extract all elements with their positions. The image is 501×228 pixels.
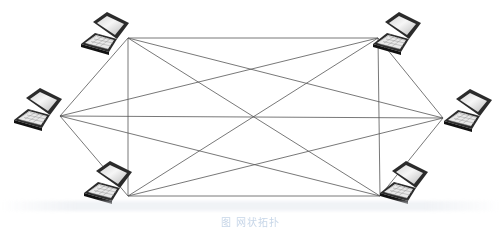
laptop-bottom-right-laptop-icon	[380, 161, 428, 204]
edge-C-F	[60, 116, 380, 196]
faded-text-band	[0, 201, 501, 211]
laptop-top-right-laptop-icon	[373, 12, 421, 55]
laptop-top-left-laptop-icon	[81, 12, 129, 55]
laptop-nodes	[14, 12, 492, 204]
mesh-topology-diagram	[0, 0, 501, 228]
laptop-right-laptop-icon	[444, 89, 492, 132]
laptop-left-laptop-icon	[14, 88, 62, 131]
laptop-bottom-left-laptop-icon	[84, 161, 132, 204]
edge-B-F	[378, 38, 380, 196]
figure-caption: 图 网状拓扑	[0, 214, 501, 228]
